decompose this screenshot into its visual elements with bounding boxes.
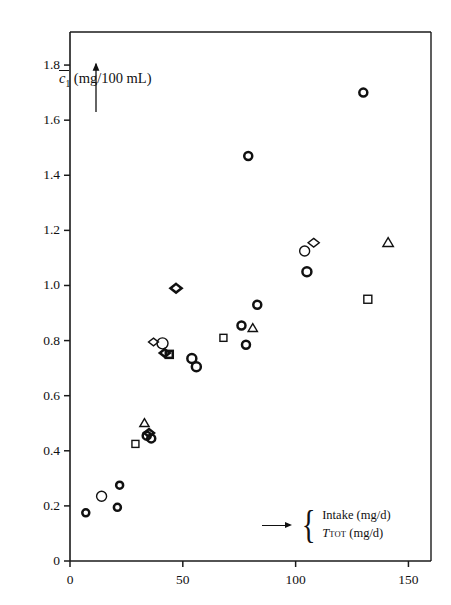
data-point-circle [157, 338, 168, 349]
data-point-circle [244, 152, 252, 160]
axis-legend: { Intake (mg/d) TTOT (mg/d) [262, 503, 391, 547]
data-point-circle [359, 89, 367, 97]
data-point-circle [302, 267, 311, 276]
y-tick-label-3: 0.6 [18, 389, 60, 403]
y-tick-label-4: 0.8 [18, 334, 60, 348]
y-tick-label-7: 1.4 [18, 169, 60, 183]
data-point-circle [116, 482, 123, 489]
legend-line-ttot: TTOT (mg/d) [322, 526, 390, 542]
data-point-circle [97, 491, 107, 501]
data-point-square [220, 334, 227, 341]
legend-line-intake: Intake (mg/d) [322, 508, 390, 524]
y-tick-label-8: 1.6 [18, 113, 60, 127]
y-tick-label-1: 0.2 [18, 499, 60, 513]
x-tick-label-0: 0 [67, 573, 74, 587]
data-point-square [364, 295, 372, 303]
data-point-circle [253, 301, 261, 309]
data-point-square [132, 440, 139, 447]
scatter-plot-figure: 00.20.40.60.81.01.21.41.61.8050100150 c1… [0, 0, 451, 605]
y-axis-label: c1 (mg/100 mL) [59, 71, 152, 89]
y-tick-label-9: 1.8 [18, 58, 60, 72]
y-tick-label-5: 1.0 [18, 279, 60, 293]
data-point-diamond [170, 284, 181, 293]
data-point-circle [300, 246, 310, 256]
data-point-circle [114, 504, 121, 511]
brace-icon: { [302, 509, 316, 542]
data-point-circle [192, 362, 201, 371]
legend-text-lines: Intake (mg/d) TTOT (mg/d) [322, 508, 390, 541]
data-point-circle [242, 341, 250, 349]
right-arrow-icon [262, 520, 292, 530]
y-tick-label-6: 1.2 [18, 224, 60, 238]
x-tick-label-2: 100 [286, 573, 306, 587]
data-point-triangle [140, 419, 149, 427]
axis-ticks [64, 63, 408, 567]
y-tick-label-0: 0 [18, 554, 60, 568]
data-point-diamond [308, 238, 319, 247]
y-axis-units: (mg/100 mL) [74, 70, 152, 86]
data-point-circle [237, 321, 245, 329]
data-point-triangle [248, 324, 257, 332]
y-axis-symbol: c1 [59, 71, 70, 89]
axes [70, 32, 431, 561]
x-tick-label-3: 150 [398, 573, 418, 587]
x-tick-label-1: 50 [176, 573, 190, 587]
y-tick-label-2: 0.4 [18, 444, 60, 458]
data-markers [82, 89, 393, 517]
data-point-circle [82, 509, 89, 516]
data-point-triangle [383, 238, 393, 247]
